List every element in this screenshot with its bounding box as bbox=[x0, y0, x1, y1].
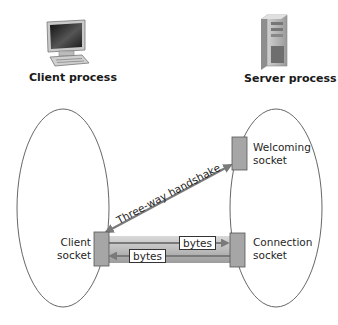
welcoming-socket-label-line1: Welcoming bbox=[253, 141, 311, 154]
server-process-title: Server process bbox=[244, 72, 337, 85]
bytes-to-client-label: bytes bbox=[129, 249, 166, 263]
connection-socket bbox=[230, 233, 245, 267]
desktop-computer-icon bbox=[47, 20, 89, 66]
welcoming-socket-label-line2: socket bbox=[253, 154, 311, 167]
client-socket-label: Client socket bbox=[55, 236, 91, 262]
client-process-ellipse bbox=[17, 109, 109, 307]
connection-socket-label-line2: socket bbox=[253, 249, 312, 262]
client-socket-label-line2: socket bbox=[55, 249, 91, 262]
client-process-title: Client process bbox=[29, 71, 117, 84]
client-socket-label-line1: Client bbox=[55, 236, 91, 249]
client-socket bbox=[94, 232, 109, 266]
welcoming-socket-label: Welcoming socket bbox=[253, 141, 311, 167]
bytes-to-server-label: bytes bbox=[179, 236, 216, 250]
server-tower-icon bbox=[261, 15, 287, 70]
connection-socket-label: Connection socket bbox=[253, 236, 312, 262]
welcoming-socket bbox=[232, 137, 247, 170]
connection-socket-label-line1: Connection bbox=[253, 236, 312, 249]
